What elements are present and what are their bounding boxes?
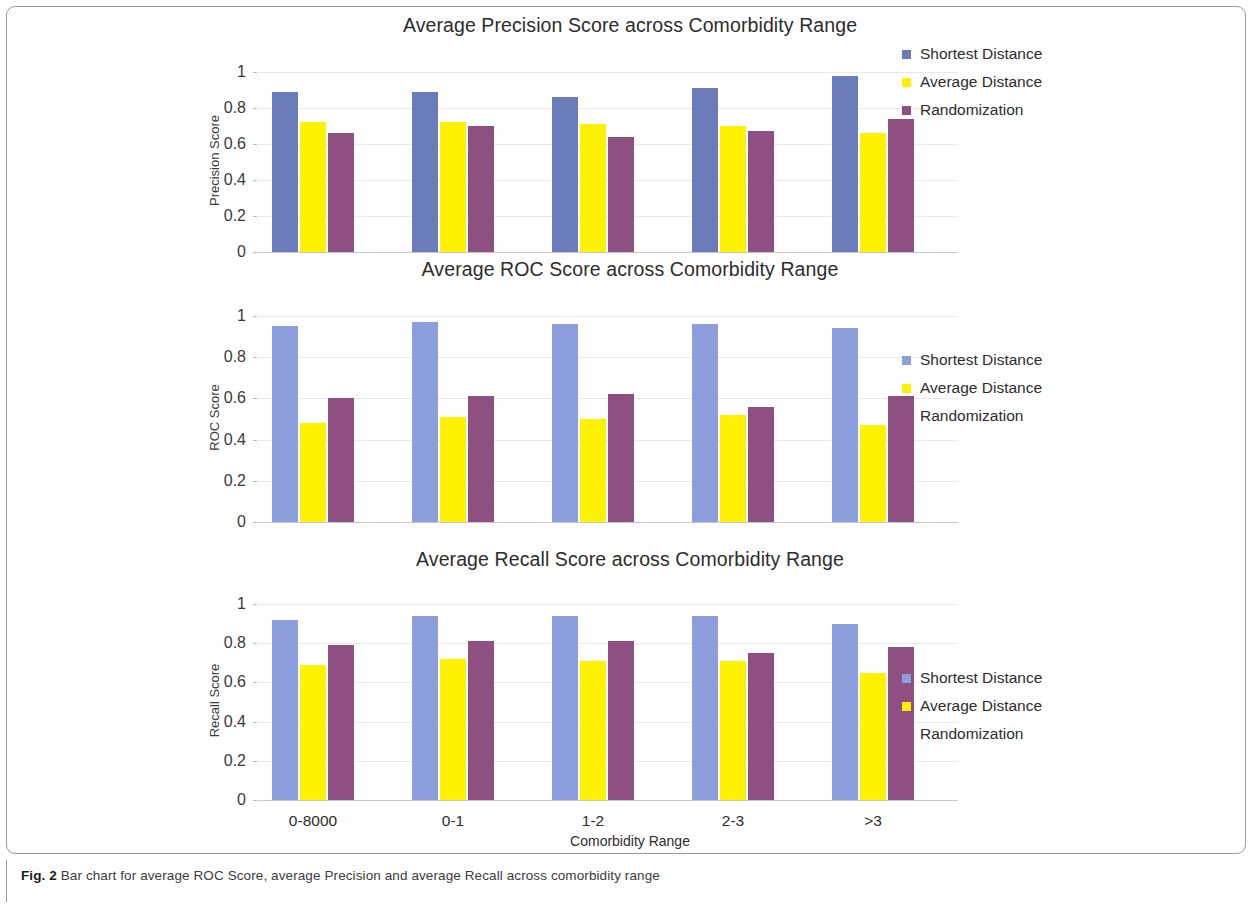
bar-roc (272, 326, 298, 522)
legend-item-precision: Shortest Distance (902, 40, 1042, 68)
bar-recall (748, 653, 774, 800)
x-tick-label: 0-8000 (289, 812, 337, 830)
bar-precision (860, 133, 886, 252)
y-tick-label-roc: 0 (237, 514, 246, 530)
gridline-precision (258, 252, 958, 253)
bar-precision (692, 88, 718, 252)
bar-recall (608, 641, 634, 800)
bar-precision (832, 76, 858, 252)
legend-item-recall: Average Distance (902, 692, 1042, 720)
gridline-roc (258, 316, 958, 317)
y-tick-mark-precision (253, 216, 257, 217)
y-tick-mark-recall (253, 722, 257, 723)
gridline-recall (258, 800, 958, 801)
y-axis-label-precision: Precision Score (207, 71, 222, 251)
legend-item-roc: Average Distance (902, 374, 1042, 402)
bar-roc (832, 328, 858, 522)
legend-label: Average Distance (920, 697, 1042, 715)
y-tick-mark-roc (253, 481, 257, 482)
legend-swatch-icon (902, 730, 911, 739)
chart-panel-roc: Average ROC Score across Comorbidity Ran… (180, 258, 1080, 536)
bar-roc (468, 396, 494, 522)
legend-swatch-icon (902, 702, 911, 711)
bar-recall (300, 665, 326, 800)
gridline-precision (258, 72, 958, 73)
caption-bar: Fig. 2 Bar chart for average ROC Score, … (6, 860, 1246, 902)
bar-roc (440, 417, 466, 522)
bar-precision (272, 92, 298, 252)
y-axis-label-roc: ROC Score (207, 315, 222, 521)
x-tick-label: 1-2 (582, 812, 604, 830)
y-tick-mark-precision (253, 108, 257, 109)
chart-panel-recall: Average Recall Score across Comorbidity … (180, 548, 1080, 848)
legend-swatch-icon (902, 50, 911, 59)
y-tick-label-precision: 0.2 (224, 208, 246, 224)
bar-precision (608, 137, 634, 252)
plot-area-recall: Recall Score00.20.40.60.810-80000-11-22-… (258, 604, 958, 800)
bar-roc (608, 394, 634, 522)
legend-swatch-icon (902, 674, 911, 683)
legend-label: Randomization (920, 725, 1023, 743)
y-tick-label-roc: 0.4 (224, 432, 246, 448)
bar-recall (272, 620, 298, 800)
legend-label: Average Distance (920, 379, 1042, 397)
bar-precision (888, 119, 914, 252)
bar-recall (328, 645, 354, 800)
y-tick-label-recall: 0.4 (224, 714, 246, 730)
y-tick-mark-recall (253, 800, 257, 801)
bar-recall (720, 661, 746, 800)
legend-item-roc: Shortest Distance (902, 346, 1042, 374)
bar-recall (832, 624, 858, 800)
gridline-recall (258, 604, 958, 605)
legend-label: Average Distance (920, 73, 1042, 91)
legend-swatch-icon (902, 106, 911, 115)
bar-precision (748, 131, 774, 252)
y-tick-label-roc: 1 (237, 308, 246, 324)
y-tick-mark-roc (253, 357, 257, 358)
bar-recall (692, 616, 718, 800)
y-tick-mark-roc (253, 398, 257, 399)
legend-swatch-icon (902, 78, 911, 87)
bar-recall (580, 661, 606, 800)
bar-recall (860, 673, 886, 800)
bar-roc (692, 324, 718, 522)
y-tick-label-recall: 0.6 (224, 674, 246, 690)
y-tick-mark-recall (253, 604, 257, 605)
legend-item-precision: Average Distance (902, 68, 1042, 96)
bar-roc (412, 322, 438, 522)
y-tick-mark-precision (253, 252, 257, 253)
bar-precision (468, 126, 494, 252)
legend-swatch-icon (902, 356, 911, 365)
gridline-roc (258, 522, 958, 523)
legend-swatch-icon (902, 384, 911, 393)
bar-precision (580, 124, 606, 252)
legend-label: Randomization (920, 101, 1023, 119)
bar-roc (860, 425, 886, 522)
y-tick-label-roc: 0.8 (224, 349, 246, 365)
bar-precision (440, 122, 466, 252)
x-tick-label: 2-3 (722, 812, 744, 830)
y-tick-mark-precision (253, 144, 257, 145)
plot-area-precision: Precision Score00.20.40.60.81 (258, 72, 958, 252)
y-tick-label-precision: 0.6 (224, 136, 246, 152)
bar-precision (328, 133, 354, 252)
figure-caption: Fig. 2 Bar chart for average ROC Score, … (21, 868, 660, 883)
x-tick-label: >3 (864, 812, 882, 830)
bar-recall (552, 616, 578, 800)
legend-item-precision: Randomization (902, 96, 1042, 124)
chart-panel-precision: Average Precision Score across Comorbidi… (180, 14, 1080, 262)
x-tick-label: 0-1 (442, 812, 464, 830)
bar-recall (440, 659, 466, 800)
y-tick-mark-precision (253, 180, 257, 181)
y-tick-label-recall: 0.8 (224, 635, 246, 651)
y-tick-mark-roc (253, 316, 257, 317)
bar-roc (300, 423, 326, 522)
y-tick-mark-recall (253, 761, 257, 762)
legend-label: Randomization (920, 407, 1023, 425)
bar-recall (468, 641, 494, 800)
y-tick-mark-roc (253, 522, 257, 523)
figure-number: Fig. 2 (21, 868, 57, 883)
bar-precision (412, 92, 438, 252)
bar-roc (328, 398, 354, 522)
legend-item-roc: Randomization (902, 402, 1042, 430)
